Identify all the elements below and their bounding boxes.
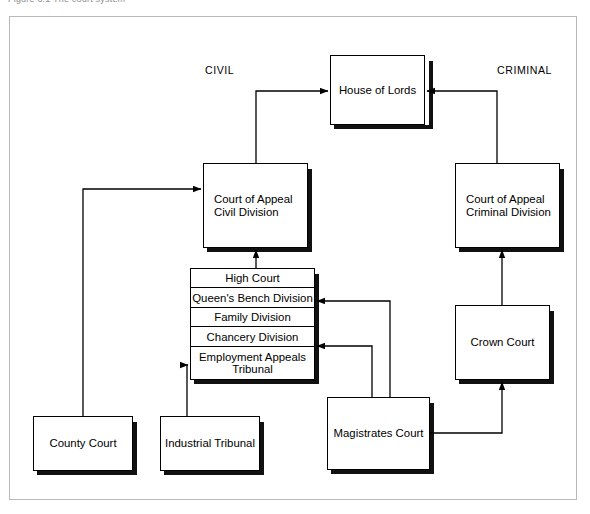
edge-magistrates-to-queens-bench: [317, 301, 390, 397]
node-magistrates-court[interactable]: Magistrates Court: [327, 397, 430, 470]
coa-criminal-line2: Criminal Division: [466, 206, 551, 218]
coa-civil-label: Court of AppealCivil Division: [204, 193, 296, 219]
stack-row-employment-appeals-tribunal-label: Employment AppealsTribunal: [199, 351, 306, 375]
edge-coa-criminal-to-lords: [427, 91, 497, 163]
magistrates-court-label: Magistrates Court: [331, 427, 427, 440]
crown-court-label: Crown Court: [468, 336, 538, 349]
coa-civil-line1: Court of Appeal: [214, 193, 293, 205]
stack-row-queens-bench-division-label: Queen's Bench Division: [192, 292, 313, 304]
edge-coa-civil-to-lords: [256, 91, 328, 163]
node-high-court-stack[interactable]: High Court Queen's Bench Division Family…: [190, 268, 315, 380]
coa-criminal-line1: Court of Appeal: [466, 193, 545, 205]
label-criminal: CRIMINAL: [497, 64, 552, 76]
stack-row-family-division[interactable]: Family Division: [191, 308, 314, 327]
industrial-tribunal-label: Industrial Tribunal: [162, 437, 258, 450]
house-of-lords-label: House of Lords: [336, 84, 419, 97]
node-court-of-appeal-criminal[interactable]: Court of AppealCriminal Division: [455, 163, 560, 248]
node-county-court[interactable]: County Court: [33, 416, 133, 471]
stack-row-queens-bench-division[interactable]: Queen's Bench Division: [191, 288, 314, 307]
stack-row-chancery-division-label: Chancery Division: [207, 331, 299, 343]
coa-civil-line2: Civil Division: [214, 206, 279, 218]
stack-row-employment-appeals-tribunal[interactable]: Employment AppealsTribunal: [191, 347, 314, 379]
node-court-of-appeal-civil[interactable]: Court of AppealCivil Division: [203, 163, 308, 248]
eat-line1: Employment Appeals: [199, 351, 306, 363]
node-crown-court[interactable]: Crown Court: [455, 305, 550, 380]
eat-line2: Tribunal: [232, 363, 273, 375]
coa-criminal-label: Court of AppealCriminal Division: [456, 193, 554, 219]
node-house-of-lords[interactable]: House of Lords: [330, 55, 425, 125]
edge-magistrates-to-crown: [430, 382, 502, 433]
edge-magistrates-to-chancery: [317, 346, 372, 397]
stack-row-family-division-label: Family Division: [214, 311, 291, 323]
stack-row-high-court-label: High Court: [225, 272, 279, 284]
label-civil: CIVIL: [205, 64, 234, 76]
node-industrial-tribunal[interactable]: Industrial Tribunal: [160, 416, 260, 471]
stack-row-chancery-division[interactable]: Chancery Division: [191, 327, 314, 346]
county-court-label: County Court: [46, 437, 119, 450]
edge-industrial-to-employment: [187, 365, 188, 416]
edge-county-to-coa-civil: [83, 189, 201, 416]
stack-row-high-court[interactable]: High Court: [191, 269, 314, 288]
diagram-canvas: CIVIL CRIMINAL House of Lords Court of A…: [0, 0, 590, 514]
